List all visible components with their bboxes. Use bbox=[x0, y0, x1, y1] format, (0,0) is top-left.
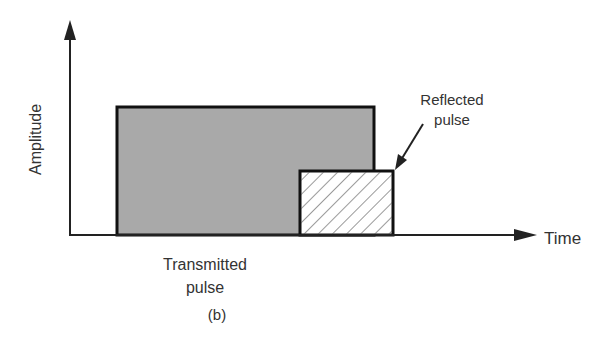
y-axis-label: Amplitude bbox=[27, 104, 45, 175]
x-axis-label: Time bbox=[544, 229, 581, 249]
figure-caption: (b) bbox=[197, 306, 237, 323]
reflected-label-line1: Reflected bbox=[412, 90, 492, 110]
x-axis-arrow-icon bbox=[514, 229, 537, 241]
transmitted-label-line2: pulse bbox=[150, 276, 260, 299]
pulse-diagram bbox=[0, 0, 613, 352]
transmitted-label-line1: Transmitted bbox=[150, 253, 260, 276]
transmitted-pulse-label: Transmitted pulse bbox=[150, 253, 260, 299]
reflected-label-line2: pulse bbox=[412, 110, 492, 130]
reflected-pulse-label: Reflected pulse bbox=[412, 90, 492, 130]
y-axis-arrow-icon bbox=[64, 20, 76, 40]
pointer-arrow-icon bbox=[395, 154, 407, 170]
